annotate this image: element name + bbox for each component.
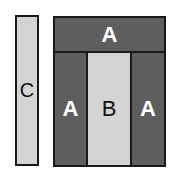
block-top-a: A	[53, 16, 166, 53]
label-top-a: A	[102, 22, 118, 48]
block-c: C	[15, 15, 39, 166]
block-b: B	[86, 51, 132, 167]
label-c: C	[20, 79, 34, 102]
label-b: B	[102, 96, 117, 122]
block-left-a: A	[53, 51, 88, 167]
block-right-a: A	[130, 51, 166, 167]
label-left-a: A	[63, 96, 79, 122]
label-right-a: A	[140, 96, 156, 122]
